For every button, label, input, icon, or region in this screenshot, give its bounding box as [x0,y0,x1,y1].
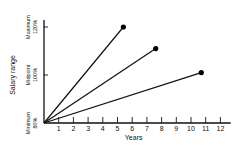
series-endpoint [153,46,158,51]
x-axis-label: Years [125,134,143,141]
x-tick-label: 9 [174,125,178,132]
x-tick-label: 10 [187,125,195,132]
series-endpoint [121,24,126,29]
x-tick-label: 3 [86,125,90,132]
x-tick-label: 1 [57,125,61,132]
x-tick-label: 6 [130,125,134,132]
y-tick-label-bottom: 120% [32,20,38,34]
salary-range-chart: 123456789101112YearsMinimum80%Midpoint10… [0,0,241,150]
y-tick-label-top: Minimum [25,111,31,134]
y-tick-label-top: Maximum [25,15,31,39]
x-tick-label: 11 [202,125,209,132]
y-tick-label: Midpoint100% [25,64,38,85]
y-tick-label: Maximum120% [25,15,38,39]
series-line [44,27,123,123]
x-tick-label: 5 [116,125,120,132]
y-axis-label-group: Salary range [9,55,17,95]
series-line [44,73,201,123]
x-tick-label: 12 [217,125,225,132]
x-tick-label: 2 [71,125,75,132]
series-endpoint [199,70,204,75]
x-tick-label: 8 [160,125,164,132]
y-axis-label: Salary range [9,55,17,95]
y-tick-label: Minimum80% [25,111,38,134]
y-tick-label-bottom: 100% [32,68,38,82]
series-line [44,49,156,123]
x-tick-label: 7 [145,125,149,132]
x-tick-label: 4 [101,125,105,132]
y-tick-label-top: Midpoint [25,64,31,85]
y-tick-label-bottom: 80% [32,117,38,128]
